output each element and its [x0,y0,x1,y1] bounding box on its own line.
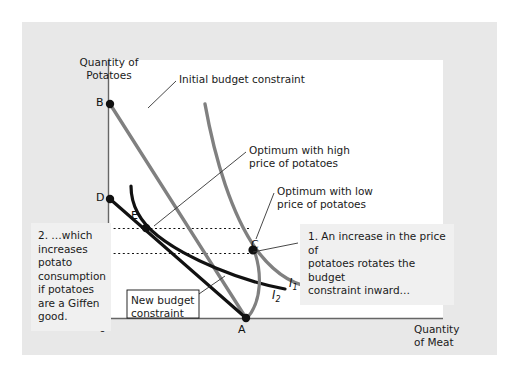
annotation-new-budget-constraint: New budget constraint [131,294,194,320]
curve-label-i1-subscript: 1 [292,283,297,292]
point-A [242,314,250,322]
point-label-c: C [251,238,259,251]
annotation-optimum-high-price: Optimum with high price of potatoes [249,144,350,170]
point-label-e: E [131,209,138,222]
callout-step-1: 1. An increase in the price of potatoes … [300,224,454,305]
curve-label-i1: I1 [289,276,298,292]
annotation-optimum-low-price: Optimum with low price of potatoes [277,185,373,211]
curve-label-i2: I2 [272,288,281,304]
point-D [106,195,114,203]
point-B [106,100,114,108]
y-axis-title: Quantity of Potatoes [74,56,144,82]
x-axis-title: Quantity of Meat [414,323,486,349]
point-label-a: A [238,323,246,336]
annotation-initial-budget-constraint: Initial budget constraint [179,73,305,86]
curve-label-i2-subscript: 2 [275,295,280,304]
callout-step-2: 2. …which increases potato consumption i… [31,223,111,331]
leader-optimum-low [256,193,274,239]
point-E [142,224,150,232]
figure-root: Quantity of Potatoes Quantity of Meat B … [0,0,521,373]
leader-initial-budget [148,81,176,108]
point-label-d: D [96,191,104,204]
leader-callout-step1 [253,243,298,252]
leader-optimum-high [154,152,246,226]
point-label-b: B [96,96,104,109]
